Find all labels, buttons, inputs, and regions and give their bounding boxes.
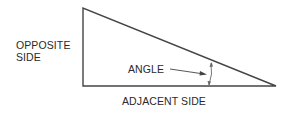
angle-label: ANGLE [128, 63, 164, 75]
angle-arc-arrowhead-bottom [208, 81, 212, 86]
opposite-label-line1: OPPOSITE [16, 39, 70, 51]
angle-leader-arrowhead [200, 71, 208, 76]
angle-leader-line [170, 69, 204, 74]
angle-arc-arrowhead-top [210, 62, 214, 67]
adjacent-side-label: ADJACENT SIDE [122, 95, 206, 107]
opposite-label-line2: SIDE [16, 51, 70, 63]
right-triangle [83, 8, 276, 86]
opposite-side-label: OPPOSITE SIDE [16, 39, 70, 63]
